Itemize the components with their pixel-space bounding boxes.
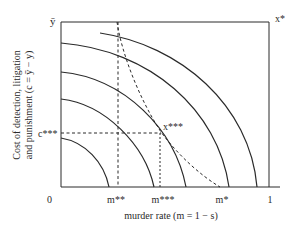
- iso-curve-5: [100, 33, 257, 187]
- diagram-canvas: ȳ c*** 0 m** m*** m* 1 murder rate (m = …: [0, 0, 294, 229]
- x-triple-star-label: x***: [163, 121, 183, 132]
- iso-curve-4: [61, 43, 229, 187]
- iso-curve-2: [61, 99, 154, 187]
- one-label: 1: [268, 194, 273, 205]
- x-axis-label: murder rate (m = 1 − s): [124, 210, 217, 222]
- m3-label: m***: [152, 194, 175, 205]
- y-axis-label-group: Cost of detection, litigation and punish…: [11, 50, 35, 159]
- x-star-label: x*: [275, 13, 285, 24]
- m2-label: m**: [107, 194, 125, 205]
- y-axis-label-line2: and punishment (c = ȳ − y): [23, 51, 35, 159]
- m1-label: m*: [216, 194, 229, 205]
- dashed-frontier-curve: [117, 22, 220, 187]
- origin-label: 0: [47, 194, 52, 205]
- y-axis-label-line1: Cost of detection, litigation: [11, 50, 22, 159]
- y-top-label: ȳ: [50, 15, 56, 27]
- iso-curve-1: [61, 138, 109, 187]
- c3-label: c***: [38, 128, 57, 139]
